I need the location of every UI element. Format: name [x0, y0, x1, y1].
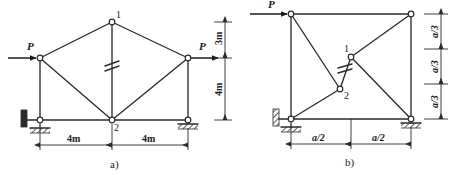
panel-b-group: P 1 2 a/2 a/2 a/3 a/3 a/3 b) [250, 0, 448, 169]
panel-a-group: P P 1 2 4m 4m 3m 4m a) [8, 9, 232, 171]
panel-b-dim-horizontal [291, 119, 411, 149]
panel-b-dim-v-label-1: a/3 [429, 25, 440, 38]
panel-b-support-left [273, 109, 301, 132]
panel-a-dim-v-label-2: 4m [213, 82, 224, 96]
panel-a-nodes [37, 19, 191, 123]
panel-b-node-label-2: 2 [344, 90, 349, 101]
panel-a-caption: a) [110, 158, 119, 171]
panel-b-members [291, 14, 411, 119]
panel-b-dim-v-label-3: a/3 [429, 95, 440, 108]
panel-a-support-left [21, 110, 50, 133]
panel-b-node-label-1: 1 [344, 43, 349, 54]
panel-b-dim-h-label-1: a/2 [312, 132, 325, 143]
engineering-figure: P P 1 2 4m 4m 3m 4m a) [0, 0, 473, 175]
panel-a-members [40, 22, 188, 120]
panel-b-force-label: P [268, 0, 275, 10]
panel-a-force-left-label: P [27, 40, 34, 52]
panel-b-member-mark-double-slash [338, 64, 352, 73]
panel-a-force-right-label: P [199, 40, 206, 52]
truss-figure-svg: P P 1 2 4m 4m 3m 4m a) [0, 0, 473, 175]
panel-a-node-label-2: 2 [114, 122, 119, 133]
panel-b-nodes [288, 11, 414, 122]
panel-b-dim-h-label-2: a/2 [372, 132, 385, 143]
panel-a-dim-h-label-2: 4m [142, 133, 156, 144]
panel-b-caption: b) [345, 156, 355, 169]
panel-b-dim-v-label-2: a/3 [429, 60, 440, 73]
panel-a-node-label-1: 1 [116, 9, 121, 20]
panel-a-dim-v-label-1: 3m [213, 31, 224, 45]
panel-a-dim-h-label-1: 4m [67, 133, 81, 144]
